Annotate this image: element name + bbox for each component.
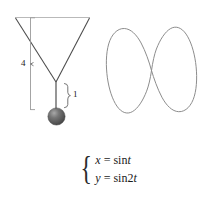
equation-lines: x = sint y = sin2t: [95, 146, 136, 190]
equation-system: { x = sint y = sin2t: [78, 146, 137, 190]
system-brace: {: [80, 146, 91, 190]
equation-y-lhs: y: [95, 171, 100, 185]
equation-y-variable: t: [133, 171, 136, 185]
equation-y-function: sin: [113, 171, 127, 185]
pendulum-group: [15, 18, 90, 126]
equation-line-x: x = sint: [95, 154, 136, 167]
right-string: [56, 18, 90, 82]
upper-length-label: 4: [21, 59, 26, 68]
equation-x-lhs: x: [95, 153, 100, 167]
pendulum-bob: [48, 108, 65, 125]
equation-x-equals: =: [104, 153, 111, 167]
upper-length-brace: [31, 18, 36, 111]
equation-line-y: y = sin2t: [95, 172, 136, 185]
equation-x-function: sin: [113, 153, 127, 167]
lower-length-label: 1: [73, 90, 78, 99]
lissajous-curve-group: [106, 27, 196, 113]
lower-length-brace: [65, 84, 71, 108]
left-string: [16, 18, 57, 82]
equation-y-equals: =: [104, 171, 111, 185]
lissajous-path: [106, 27, 196, 113]
bob-sphere: [48, 108, 65, 125]
figure-container: 4 1 { x = sint y = sin2t: [0, 0, 203, 222]
equation-x-variable: t: [127, 153, 130, 167]
